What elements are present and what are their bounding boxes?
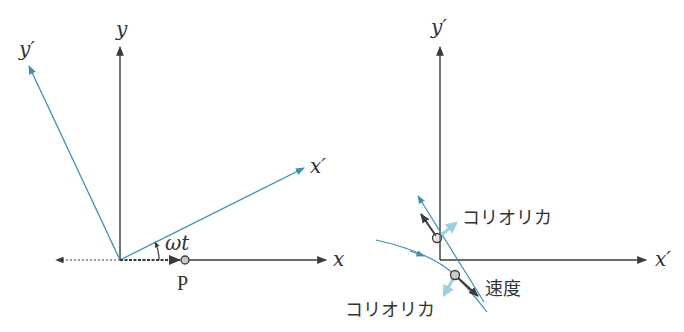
x-prime-axis <box>120 168 304 260</box>
rotating-x-axis-label: x′ <box>655 247 671 271</box>
upper-velocity-arrow <box>421 214 436 236</box>
coriolis-diagram: y x y′ x′ ωt P y′ x′ <box>0 0 684 332</box>
x-axis-label: x <box>333 247 344 271</box>
right-panel: y′ x′ コリオリカ 速度 コリオリカ <box>345 15 671 320</box>
lower-particle <box>451 271 460 280</box>
velocity-label: 速度 <box>485 278 521 299</box>
y-prime-axis-label: y′ <box>18 37 35 61</box>
y-prime-axis <box>29 66 120 260</box>
y-axis-label: y <box>115 17 128 41</box>
lower-coriolis-arrow <box>444 279 453 295</box>
x-prime-axis-label: x′ <box>310 154 326 178</box>
point-p-label: P <box>177 272 188 294</box>
angle-label: ωt <box>165 231 190 255</box>
upper-particle <box>433 234 442 243</box>
point-p-marker <box>181 256 189 264</box>
upper-coriolis-arrow <box>440 223 456 236</box>
upper-coriolis-label: コリオリカ <box>462 207 552 228</box>
lower-coriolis-label: コリオリカ <box>345 299 435 320</box>
angle-arc <box>155 242 159 260</box>
left-panel: y x y′ x′ ωt P <box>18 17 344 294</box>
rotating-y-axis-label: y′ <box>430 15 447 39</box>
diagram-canvas: y x y′ x′ ωt P y′ x′ <box>0 0 684 332</box>
